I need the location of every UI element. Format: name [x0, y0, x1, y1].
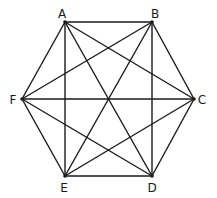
segment-ef — [22, 99, 65, 176]
segment-bc — [152, 22, 194, 99]
hexagon-diagram: A B C D E F — [0, 0, 217, 198]
vertex-label-a: A — [58, 7, 67, 21]
segment-df — [22, 99, 152, 176]
vertex-label-e: E — [60, 181, 68, 195]
segment-bf — [22, 22, 152, 99]
vertex-dot-e — [63, 174, 67, 178]
vertex-label-f: F — [10, 93, 17, 107]
vertex-dot-c — [192, 97, 196, 101]
vertex-dot-f — [20, 97, 24, 101]
segment-cd — [152, 99, 194, 176]
vertex-label-b: B — [151, 7, 159, 21]
vertex-label-c: C — [198, 93, 206, 107]
vertex-dot-d — [150, 174, 154, 178]
edges — [22, 22, 194, 176]
segment-fa — [22, 22, 65, 99]
segment-ce — [65, 99, 194, 176]
vertex-label-d: D — [147, 181, 156, 195]
